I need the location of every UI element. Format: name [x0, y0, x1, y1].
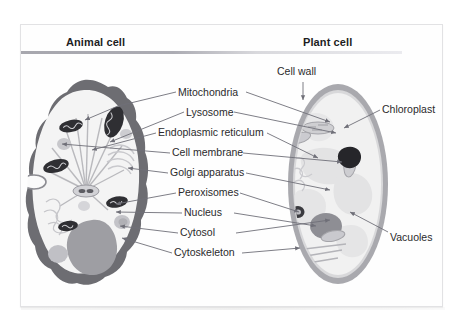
label-endoplasmic-reticulum: Endoplasmic reticulum — [158, 127, 264, 138]
label-peroxisomes: Peroxisomes — [178, 187, 239, 198]
label-nucleus: Nucleus — [184, 207, 222, 218]
label-lysosome: Lysosome — [186, 107, 233, 118]
label-mitochondria: Mitochondria — [178, 87, 238, 98]
label-golgi-apparatus: Golgi apparatus — [170, 167, 244, 178]
cell-diagram-figure: Animal cell Plant cell — [0, 0, 460, 332]
label-chloroplast: Chloroplast — [382, 104, 435, 115]
label-cell-membrane: Cell membrane — [172, 147, 243, 158]
label-vacuoles: Vacuoles — [390, 232, 432, 243]
label-cytoskeleton: Cytoskeleton — [174, 247, 235, 258]
label-cell-wall: Cell wall — [277, 66, 316, 77]
label-cytosol: Cytosol — [180, 227, 215, 238]
